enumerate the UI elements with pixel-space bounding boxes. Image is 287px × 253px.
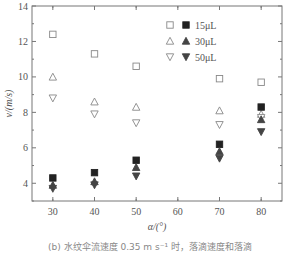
plot-frame bbox=[32, 6, 282, 201]
y-tick-label: 4 bbox=[23, 178, 28, 189]
legend-marker-open bbox=[167, 22, 173, 28]
x-tick-label: 50 bbox=[131, 206, 141, 217]
legend-marker-open bbox=[166, 54, 173, 61]
data-point bbox=[50, 175, 56, 181]
x-tick-label: 40 bbox=[90, 206, 100, 217]
data-point bbox=[91, 111, 98, 118]
data-point bbox=[132, 164, 139, 171]
data-point bbox=[216, 148, 223, 155]
data-point bbox=[91, 51, 97, 57]
y-tick-label: 14 bbox=[18, 1, 28, 12]
y-tick-label: 12 bbox=[18, 36, 28, 47]
data-point bbox=[216, 75, 222, 81]
data-point bbox=[133, 63, 139, 69]
data-point bbox=[216, 141, 222, 147]
data-point bbox=[257, 129, 264, 136]
x-tick-label: 80 bbox=[256, 206, 266, 217]
data-point bbox=[132, 103, 139, 110]
y-tick-label: 6 bbox=[23, 142, 28, 153]
data-point bbox=[258, 79, 264, 85]
data-point bbox=[258, 104, 264, 110]
data-point bbox=[50, 31, 56, 37]
legend-label: 50μL bbox=[195, 52, 216, 63]
data-point bbox=[216, 107, 223, 114]
data-point bbox=[91, 182, 98, 189]
legend-marker-open bbox=[166, 37, 173, 44]
legend-label: 30μL bbox=[195, 36, 216, 47]
data-point bbox=[49, 95, 56, 102]
legend-marker-filled bbox=[182, 54, 189, 61]
figure-caption: (b) 水纹伞流速度 0.35 m s⁻¹ 时，落滴速度和落滴 bbox=[48, 240, 252, 253]
legend-label: 15μL bbox=[195, 20, 216, 31]
y-axis-label: v/(m/s) bbox=[3, 89, 15, 117]
y-tick-label: 8 bbox=[23, 107, 28, 118]
data-point bbox=[91, 98, 98, 105]
data-point bbox=[132, 173, 139, 180]
x-axis-label: α/(°) bbox=[148, 221, 167, 233]
data-point bbox=[49, 185, 56, 192]
x-tick-label: 70 bbox=[215, 206, 225, 217]
legend-marker-filled bbox=[183, 22, 189, 28]
data-point bbox=[216, 122, 223, 129]
y-tick-label: 10 bbox=[18, 71, 28, 82]
x-tick-label: 60 bbox=[173, 206, 183, 217]
data-point bbox=[133, 157, 139, 163]
legend-marker-filled bbox=[182, 37, 189, 44]
data-point bbox=[91, 169, 97, 175]
data-point bbox=[216, 155, 223, 162]
x-tick-label: 30 bbox=[48, 206, 58, 217]
data-point bbox=[132, 120, 139, 127]
data-point bbox=[49, 73, 56, 80]
